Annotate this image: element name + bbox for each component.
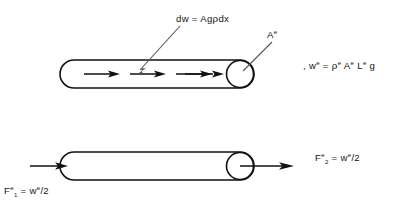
f2-divisor: /2 [351,152,360,163]
dw-lhs: dw [176,13,189,24]
weight-gravity-symbol: g [370,60,376,71]
f1-equals: = [21,185,27,196]
weight-equals: = [323,60,329,71]
weight-area-base: A [344,60,351,71]
f1-w-base: w [29,185,36,196]
weight-length-superscript: e [363,59,367,66]
label-force-right: Fe2 = we/2 [315,152,360,163]
weight-w-superscript: e [316,59,320,66]
dw-rhs-prefix: Ag [200,13,212,24]
top-pipe-element [60,26,272,88]
f1-subscript: 1 [14,191,18,198]
weight-rho-superscript: e [338,59,342,66]
f1-superscript: e [10,184,14,191]
area-superscript: e [274,28,278,35]
diagram-canvas [0,0,415,217]
bottom-pipe-body [60,152,254,180]
f1-divisor: /2 [40,185,49,196]
leader-line-area-callout [243,42,272,71]
bottom-pipe-element [30,152,294,180]
weight-leading-comma: , [303,60,306,71]
dw-rhs-suffix: dx [218,13,229,24]
weight-area-superscript: e [351,59,355,66]
area-base: A [267,29,274,40]
label-force-left: Fe1 = we/2 [4,185,49,196]
f2-subscript: 2 [325,158,329,165]
dw-equals: = [192,13,198,24]
engineering-diagram: dw = Agρdx Ae , we = ρe Ae Le g Fe1 = we… [0,0,415,217]
label-distributed-load: dw = Agρdx [176,13,229,24]
label-total-weight-equation: , we = ρe Ae Le g [303,60,375,71]
label-area-callout: Ae [267,29,277,40]
f2-equals: = [332,152,338,163]
f2-w-base: w [340,152,347,163]
f2-superscript: e [321,151,325,158]
